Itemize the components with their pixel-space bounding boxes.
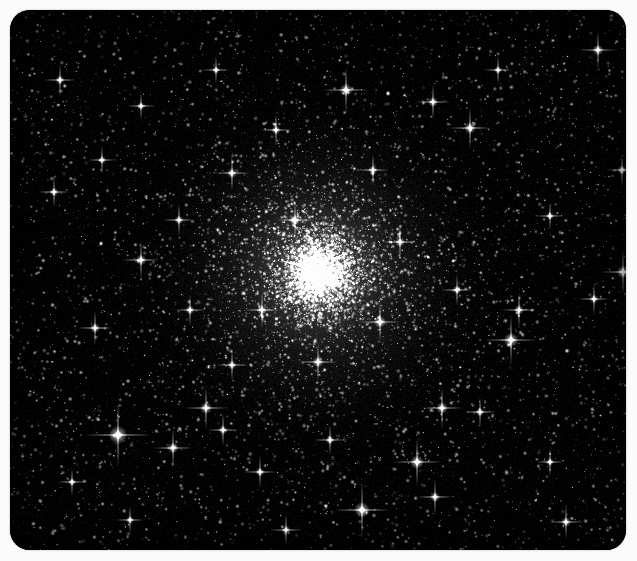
- globular-cluster-image: [10, 10, 626, 550]
- astronomy-photo-panel: [10, 10, 626, 550]
- screenshot-root: Dense globular star cluster with a brigh…: [0, 0, 637, 561]
